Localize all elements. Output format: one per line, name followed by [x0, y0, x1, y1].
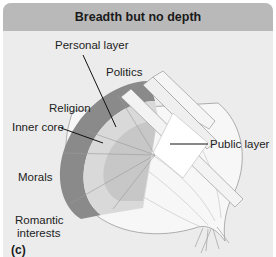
label-inner-core: Inner core [12, 121, 64, 134]
label-religion: Religion [49, 102, 91, 115]
panel-letter: (c) [11, 243, 26, 257]
figure-panel: Breadth but no depth Personal [3, 3, 273, 257]
label-politics: Politics [106, 66, 142, 79]
label-romantic-interests-line2: interests [17, 227, 60, 240]
label-personal-layer: Personal layer [55, 39, 129, 52]
label-morals: Morals [18, 171, 53, 184]
label-romantic-interests-line1: Romantic [15, 214, 64, 227]
label-public-layer: Public layer [210, 138, 269, 151]
